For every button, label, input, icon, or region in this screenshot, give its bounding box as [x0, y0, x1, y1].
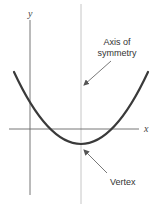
parabola-diagram: y x Axis of symmetry Vertex [0, 0, 162, 204]
axis-of-symmetry-arrow-icon [84, 61, 111, 85]
vertex-label: Vertex [110, 177, 136, 187]
y-axis-label: y [27, 8, 33, 19]
axis-of-symmetry-label-line2: symmetry [98, 48, 137, 58]
x-axis-label: x [143, 123, 149, 134]
vertex-arrow-icon [84, 150, 107, 173]
axis-of-symmetry-label-line1: Axis of [103, 37, 131, 47]
